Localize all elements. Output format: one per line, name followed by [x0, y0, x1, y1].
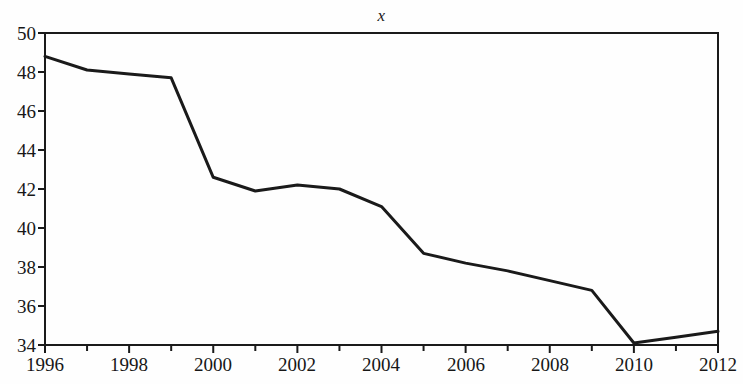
chart-figure: x 50 48 46 44 42 40 38 36 34 1996 1998 2…: [0, 0, 743, 384]
plot-area: [0, 0, 743, 384]
x-axis-ticks: [45, 345, 718, 353]
data-series-line: [45, 56, 718, 343]
plot-frame: [45, 33, 718, 345]
y-axis-ticks: [38, 33, 45, 345]
